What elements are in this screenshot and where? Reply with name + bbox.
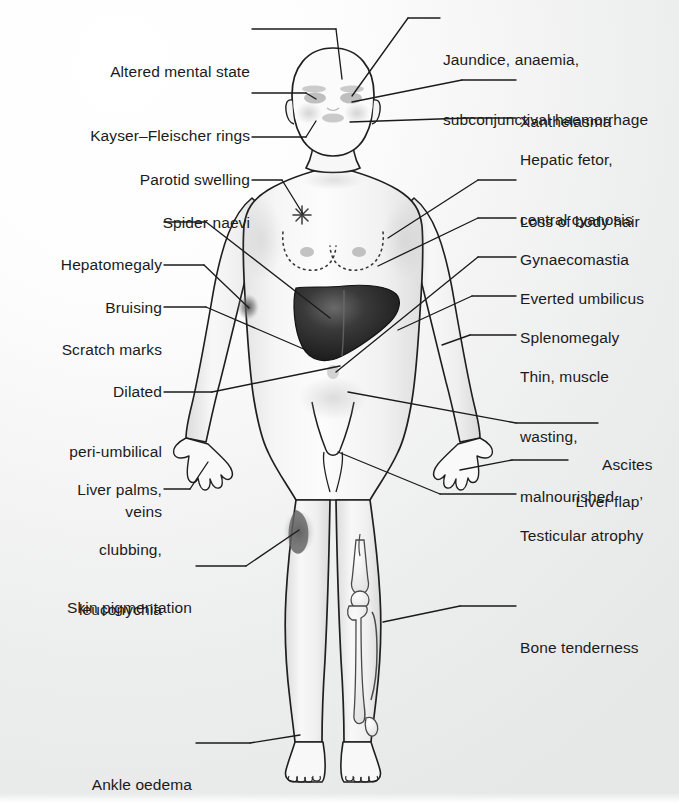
label-line: Skin pigmentation bbox=[52, 598, 192, 618]
label-line: Testicular atrophy bbox=[520, 526, 643, 546]
label-line: Hepatic fetor, bbox=[520, 150, 633, 170]
label-line: Bone tenderness bbox=[520, 638, 639, 658]
label-line: Jaundice, anaemia, bbox=[443, 50, 648, 70]
label-line: Altered mental state bbox=[50, 62, 250, 82]
label-skin-pigmentation: Skin pigmentation bbox=[52, 558, 192, 658]
right-hand bbox=[434, 438, 493, 490]
label-line: clubbing, bbox=[40, 540, 162, 560]
label-bone-tenderness: Bone tenderness bbox=[520, 598, 639, 698]
label-testicular-atrophy: Testicular atrophy bbox=[520, 486, 643, 586]
label-line: Thin, muscle bbox=[520, 367, 614, 387]
label-line: Ankle oedema bbox=[80, 775, 192, 795]
left-hand bbox=[174, 438, 233, 490]
label-line: Dilated bbox=[28, 382, 162, 402]
label-line: Liver palms, bbox=[40, 480, 162, 500]
diagram-canvas: Altered mental state Kayser–Fleischer ri… bbox=[0, 0, 679, 807]
label-ankle-oedema: Ankle oedema bbox=[80, 735, 192, 807]
spider-naevus-mark bbox=[293, 206, 311, 224]
label-line: wasting, bbox=[520, 427, 614, 447]
